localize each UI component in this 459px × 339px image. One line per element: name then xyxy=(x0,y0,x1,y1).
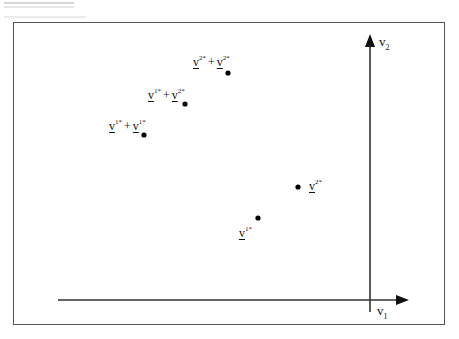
superscript: 2* xyxy=(178,87,185,95)
point-v1-plus-v1-dot xyxy=(141,132,146,137)
y-axis-label-sub: 2 xyxy=(386,43,390,52)
point-v2-label: v2* xyxy=(309,177,322,192)
point-v1-plus-v2-dot xyxy=(182,101,187,106)
vector-symbol: v xyxy=(133,119,139,133)
x-axis-label-sub: 1 xyxy=(384,312,388,321)
point-v1-label: v1* xyxy=(239,224,252,239)
superscript: 2* xyxy=(199,54,206,62)
x-axis-label: v1 xyxy=(377,303,388,321)
point-v1-plus-v1-label: v1*+v1* xyxy=(109,117,146,132)
superscript: 1* xyxy=(245,225,252,233)
vector-symbol: v xyxy=(217,55,223,69)
vector-symbol: v xyxy=(172,88,178,102)
superscript: 1* xyxy=(154,87,161,95)
plus-sign: + xyxy=(208,55,215,69)
point-v2-plus-v2-dot xyxy=(225,70,230,75)
superscript: 2* xyxy=(223,54,230,62)
point-v1-dot xyxy=(255,215,260,220)
y-axis-label: v2 xyxy=(379,34,390,52)
superscript: 2* xyxy=(315,178,322,186)
superscript: 1* xyxy=(139,118,146,126)
superscript: 1* xyxy=(115,118,122,126)
plus-sign: + xyxy=(124,119,131,133)
axes-canvas xyxy=(0,0,459,339)
point-v1-plus-v2-label: v1*+v2* xyxy=(148,86,185,101)
plus-sign: + xyxy=(163,88,170,102)
point-v2-dot xyxy=(295,184,300,189)
y-axis-arrowhead-icon xyxy=(365,34,375,47)
point-v2-plus-v2-label: v2*+v2* xyxy=(193,53,230,68)
x-axis-arrowhead-icon xyxy=(396,295,409,305)
